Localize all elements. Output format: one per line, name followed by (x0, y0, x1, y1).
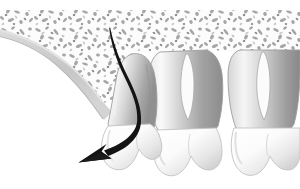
dental-illustration (0, 0, 300, 189)
tooth-middle (148, 50, 223, 176)
illustration-canvas (0, 0, 300, 189)
tooth-right (228, 50, 300, 175)
